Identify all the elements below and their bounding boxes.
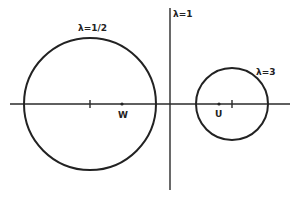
lambda-one-label: λ=1: [173, 9, 193, 19]
point-u-marker: [217, 102, 220, 105]
lambda-half-label: λ=1/2: [78, 23, 107, 33]
diagram: λ=1 λ=1/2 W λ=3 U: [0, 0, 296, 197]
point-u-label: U: [215, 109, 222, 119]
lambda-three-label: λ=3: [256, 67, 276, 77]
point-w-label: W: [118, 110, 128, 120]
point-w-marker: [120, 102, 123, 105]
